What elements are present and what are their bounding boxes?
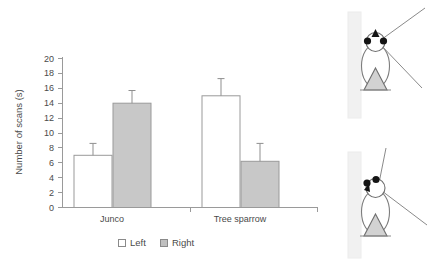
bird-diagram-upper	[348, 8, 425, 118]
legend-swatch-right	[161, 240, 168, 247]
figure-root: Number of scans (s) 0 2 4 6 8 10 12	[0, 0, 437, 273]
chart-legend: Left Right	[119, 237, 195, 248]
bar-treesparrow-left	[202, 96, 240, 208]
bar-junco-right	[113, 103, 151, 207]
y-tick-label-6: 6	[49, 158, 54, 168]
y-tick-label-16: 16	[44, 83, 54, 93]
errorbar-junco-left	[90, 143, 97, 155]
y-tick-label-12: 12	[44, 113, 54, 123]
errorbar-treesparrow-right	[257, 143, 264, 161]
bar-chart-svg: Number of scans (s) 0 2 4 6 8 10 12	[0, 0, 330, 273]
y-tick-label-8: 8	[49, 143, 54, 153]
bird-eye-upper-left	[364, 37, 371, 44]
bird-diagram-svg	[330, 0, 437, 273]
bar-junco-left	[74, 155, 112, 207]
x-category-label-tree-sparrow: Tree sparrow	[214, 214, 267, 224]
y-tick-label-20: 20	[44, 54, 54, 64]
y-tick-label-0: 0	[49, 203, 54, 213]
bird-eye-lower-right	[372, 176, 379, 183]
y-tick-label-10: 10	[44, 128, 54, 138]
legend-swatch-left	[119, 240, 126, 247]
bird-eye-upper-right	[380, 37, 387, 44]
y-axis-title: Number of scans (s)	[13, 89, 24, 175]
errorbar-junco-right	[129, 91, 136, 104]
bird-diagram-lower	[348, 148, 427, 258]
x-category-label-junco: Junco	[100, 214, 124, 224]
legend-label-left: Left	[130, 237, 146, 248]
legend-label-right: Right	[172, 237, 195, 248]
y-tick-label-14: 14	[44, 98, 54, 108]
wall-panel-lower	[348, 152, 361, 258]
y-tick-label-2: 2	[49, 188, 54, 198]
bar-chart-panel: Number of scans (s) 0 2 4 6 8 10 12	[0, 0, 330, 273]
bird-diagram-panel	[330, 0, 437, 273]
gaze-line-upper-a	[378, 8, 425, 42]
y-axis-ticks: 0 2 4 6 8 10 12 14 16 18	[44, 54, 63, 213]
bird-eye-lower-left	[363, 179, 370, 186]
y-tick-label-18: 18	[44, 68, 54, 78]
y-tick-label-4: 4	[49, 173, 54, 183]
bar-treesparrow-right	[241, 161, 279, 207]
wall-panel-upper	[348, 12, 361, 118]
errorbar-treesparrow-left	[218, 79, 225, 96]
